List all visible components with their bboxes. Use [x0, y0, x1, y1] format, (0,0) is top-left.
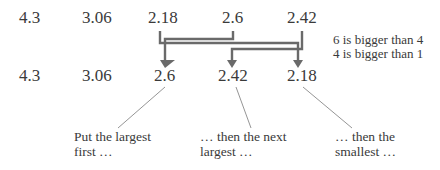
arrow-2-6-path: [165, 31, 233, 63]
leader-line-largest: [118, 87, 165, 128]
arrow-head-2-6: [160, 60, 175, 68]
reorder-arrows: [0, 0, 440, 170]
arrow-2-42-path: [232, 31, 302, 63]
leader-line-next-largest: [236, 87, 251, 128]
arrow-head-2-42: [227, 60, 237, 68]
leader-line-smallest: [303, 87, 352, 128]
arrow-head-2-18: [293, 60, 303, 68]
arrow-2-18-path: [160, 31, 298, 63]
